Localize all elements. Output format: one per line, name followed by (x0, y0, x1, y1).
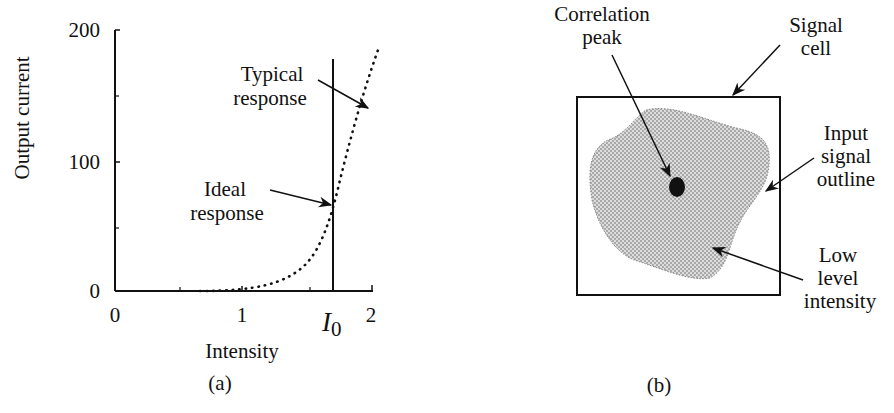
low-intensity-arrow (713, 248, 803, 280)
signal-cell-label-2: cell (801, 36, 831, 60)
low-intensity-label-1: Low (819, 243, 858, 267)
figure: 200 100 0 0 1 2 I0 Output current Intens… (0, 0, 894, 413)
correlation-peak-label-1: Correlation (554, 2, 650, 26)
input-outline-label-3: outline (817, 167, 875, 191)
y-tick-100: 100 (69, 150, 101, 174)
correlation-peak-dot (669, 177, 685, 197)
typical-response-label-2: response (233, 86, 306, 110)
typical-response-arrow (318, 80, 368, 108)
signal-cell-arrow (733, 45, 780, 95)
ideal-response-label-2: response (190, 201, 263, 225)
low-intensity-label-2: level (818, 266, 859, 290)
low-intensity-label-3: intensity (804, 289, 877, 313)
panel-a-caption: (a) (208, 371, 231, 395)
panel-a-chart: 200 100 0 0 1 2 I0 Output current Intens… (10, 18, 378, 395)
ideal-response-arrow (270, 190, 331, 205)
ideal-response-label-1: Ideal (204, 177, 246, 201)
signal-cell-label-1: Signal (789, 13, 843, 37)
input-outline-label-1: Input (824, 121, 868, 145)
correlation-peak-label-2: peak (582, 25, 622, 49)
y-tick-0: 0 (90, 279, 101, 303)
panel-b-caption: (b) (647, 373, 672, 397)
x-axis-label: Intensity (205, 339, 279, 363)
x-tick-2: 2 (366, 303, 377, 327)
y-tick-200: 200 (69, 18, 101, 42)
y-axis-label: Output current (10, 56, 34, 179)
panel-b-diagram: Correlation peak Signal cell Input signa… (554, 2, 876, 397)
x-tick-1: 1 (237, 303, 248, 327)
typical-response-label-1: Typical (241, 62, 304, 86)
input-outline-label-2: signal (821, 144, 871, 168)
i0-label: I0 (321, 307, 342, 341)
input-outline-arrow (766, 158, 814, 191)
x-tick-0: 0 (110, 303, 121, 327)
